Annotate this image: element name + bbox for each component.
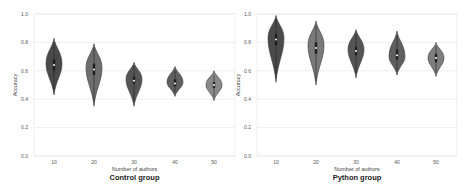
y-tick-label: 0.8 xyxy=(21,39,28,45)
x-tick-label: 40 xyxy=(172,159,178,165)
x-tick-label: 50 xyxy=(211,159,217,165)
median-marker xyxy=(93,68,95,70)
y-tick-label: 0.8 xyxy=(244,39,251,45)
y-tick-label: 0.2 xyxy=(21,124,28,130)
median-marker xyxy=(213,84,215,86)
y-tick-label: 0.0 xyxy=(244,153,251,159)
median-marker xyxy=(174,83,176,85)
y-tick-label: 0.6 xyxy=(21,68,28,74)
x-axis-title: Number of authors xyxy=(112,166,158,172)
median-marker xyxy=(133,80,135,82)
x-axis-title: Number of authors xyxy=(334,166,380,172)
y-tick-label: 0.6 xyxy=(244,68,251,74)
panel-title: Python group xyxy=(333,173,382,182)
median-marker xyxy=(275,39,277,41)
control-group-panel: 0.00.20.40.60.81.0Accuracy1020304050Numb… xyxy=(0,0,237,190)
y-axis-title: Accuracy xyxy=(235,73,241,96)
y-tick-label: 1.0 xyxy=(244,11,251,17)
y-tick-label: 0.0 xyxy=(21,153,28,159)
x-tick-label: 10 xyxy=(51,159,57,165)
panel-title: Control group xyxy=(110,173,160,182)
python-group-panel: 0.00.20.40.60.81.0Accuracy1020304050Numb… xyxy=(222,0,473,190)
x-tick-label: 10 xyxy=(273,159,279,165)
y-tick-label: 0.2 xyxy=(244,124,251,130)
median-marker xyxy=(396,54,398,56)
y-tick-label: 0.4 xyxy=(21,96,28,102)
x-tick-label: 30 xyxy=(353,159,359,165)
x-tick-label: 20 xyxy=(313,159,319,165)
python-group-chart: 0.00.20.40.60.81.0Accuracy1020304050Numb… xyxy=(222,0,473,190)
x-tick-label: 50 xyxy=(433,159,439,165)
median-marker xyxy=(53,64,55,66)
control-group-chart: 0.00.20.40.60.81.0Accuracy1020304050Numb… xyxy=(0,0,237,190)
median-marker xyxy=(355,50,357,52)
y-axis-title: Accuracy xyxy=(12,73,18,96)
y-tick-label: 1.0 xyxy=(21,11,28,17)
y-tick-label: 0.4 xyxy=(244,96,251,102)
median-marker xyxy=(435,57,437,59)
x-tick-label: 30 xyxy=(131,159,137,165)
x-tick-label: 40 xyxy=(394,159,400,165)
median-marker xyxy=(315,47,317,49)
x-tick-label: 20 xyxy=(91,159,97,165)
